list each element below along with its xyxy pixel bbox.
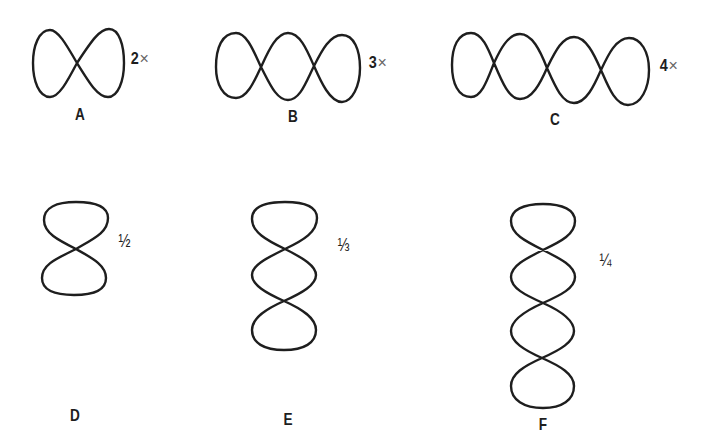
figure-label-b: B <box>288 107 298 127</box>
ratio-label-e: ⅓ <box>338 235 350 256</box>
lissajous-figures <box>0 0 703 447</box>
figure-label-f: F <box>539 415 547 435</box>
figure-b-curve <box>216 33 360 102</box>
ratio-label-d: ½ <box>119 231 131 252</box>
figure-label-e: E <box>283 410 292 430</box>
times-symbol: × <box>139 50 148 67</box>
ratio-label-b: 3× <box>368 53 387 73</box>
ratio-label-f: ¼ <box>600 250 612 271</box>
ratio-number: 4 <box>660 56 668 76</box>
times-symbol: × <box>668 57 677 74</box>
figure-e-curve <box>252 202 317 350</box>
ratio-number: 3 <box>369 53 377 73</box>
figure-label-c: C <box>550 110 560 130</box>
figure-c-curve <box>452 33 649 105</box>
ratio-label-a: 2× <box>130 49 149 69</box>
figure-label-d: D <box>70 406 80 426</box>
ratio-label-c: 4× <box>659 56 678 76</box>
times-symbol: × <box>377 54 386 71</box>
ratio-number: 2 <box>131 49 139 69</box>
figure-f-curve <box>511 204 575 408</box>
figure-a-curve <box>33 29 124 97</box>
figure-label-a: A <box>75 105 85 125</box>
figure-d-curve <box>42 202 108 295</box>
